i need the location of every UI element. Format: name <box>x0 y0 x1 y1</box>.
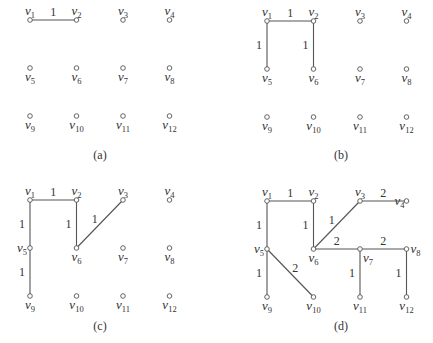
vertex-label-subscript: 4 <box>170 190 175 200</box>
vertex-label-subscript: 11 <box>122 124 130 134</box>
edge-weight-label: 1 <box>50 185 56 199</box>
edge-weight-label: 1 <box>50 5 56 19</box>
panel-c: 11111v1v2v3v4v5v6v7v8v9v10v11v12(c) <box>17 183 177 333</box>
vertex-label-subscript: 6 <box>314 257 318 267</box>
vertex-label-subscript: 8 <box>170 76 174 86</box>
vertex-label-v2: v2 <box>308 4 318 21</box>
vertex-label-v6: v6 <box>308 70 318 87</box>
edge-weight-label: 2 <box>334 234 340 248</box>
vertex-label-subscript: 2 <box>77 190 81 200</box>
vertex-label-subscript: 3 <box>361 191 365 201</box>
vertex-label-v2: v2 <box>71 3 81 20</box>
edge-weight-label: 1 <box>303 218 309 232</box>
vertex-v7 <box>358 247 363 252</box>
vertex-label-v11: v11 <box>353 118 367 135</box>
edge-weight-label: 1 <box>329 213 335 227</box>
vertex-label-subscript: 5 <box>268 77 272 87</box>
vertex-label-v12: v12 <box>162 117 176 134</box>
vertex-label-subscript: 2 <box>314 191 318 201</box>
edge-weight-label: 1 <box>256 218 262 232</box>
vertex-label-subscript: 4 <box>170 10 175 20</box>
vertex-label-v1: v1 <box>25 183 35 200</box>
vertex-label-subscript: 8 <box>170 256 174 266</box>
vertex-label-v5: v5 <box>25 69 35 86</box>
vertex-label-v7: v7 <box>355 70 365 87</box>
vertex-label-v11: v11 <box>116 297 130 314</box>
vertex-label-v8: v8 <box>164 249 174 266</box>
vertex-label-subscript: 1 <box>268 11 272 21</box>
vertex-label-v3: v3 <box>355 184 365 201</box>
edge-weight-label: 1 <box>303 38 309 52</box>
vertex-label-subscript: 10 <box>312 305 321 315</box>
panel-caption-c: (c) <box>93 319 106 333</box>
vertex-label-v6: v6 <box>71 249 81 266</box>
vertex-label-subscript: 2 <box>314 11 318 21</box>
vertex-label-subscript: 8 <box>416 248 420 258</box>
vertex-label-v8: v8 <box>164 69 174 86</box>
vertex-label-subscript: 5 <box>31 76 35 86</box>
vertex-label-subscript: 3 <box>124 190 128 200</box>
vertex-label-v3: v3 <box>118 183 128 200</box>
vertex-label-subscript: 1 <box>31 190 35 200</box>
edge-weight-label: 2 <box>292 261 298 275</box>
vertex-label-subscript: 7 <box>124 256 128 266</box>
vertex-label-subscript: 4 <box>407 11 412 21</box>
vertex-label-v5: v5 <box>17 240 27 257</box>
vertex-label-v11: v11 <box>353 298 367 315</box>
edge-weight-label: 1 <box>349 266 355 280</box>
vertex-label-v4: v4 <box>164 183 175 200</box>
vertex-label-v9: v9 <box>25 117 35 134</box>
vertex-label-v8: v8 <box>411 241 421 258</box>
panel-d: 11111222211v1v2v3v4v5v6v7v8v9v10v11v12(d… <box>254 184 421 333</box>
vertex-label-v7: v7 <box>118 249 128 266</box>
vertex-label-v6: v6 <box>308 250 318 267</box>
panel-caption-d: (d) <box>334 319 348 333</box>
vertex-v8 <box>404 247 409 252</box>
vertex-label-subscript: 8 <box>407 77 411 87</box>
panel-caption-b: (b) <box>334 148 348 162</box>
vertex-label-v3: v3 <box>118 3 128 20</box>
edge-v6-v3 <box>77 200 124 248</box>
vertex-label-v10: v10 <box>306 118 320 135</box>
vertex-label-subscript: 7 <box>124 76 128 86</box>
vertex-label-subscript: 9 <box>268 125 272 135</box>
graph-figure: 1v1v2v3v4v5v6v7v8v9v10v11v12(a)111v1v2v3… <box>0 0 433 343</box>
vertex-label-v3: v3 <box>355 4 365 21</box>
edge-weight-label: 1 <box>256 38 262 52</box>
edge-weight-label: 2 <box>380 186 386 200</box>
vertex-label-v9: v9 <box>262 118 272 135</box>
vertex-label-subscript: 5 <box>23 247 27 257</box>
vertex-label-v5: v5 <box>262 70 272 87</box>
panel-a: 1v1v2v3v4v5v6v7v8v9v10v11v12(a) <box>25 3 177 162</box>
vertex-label-subscript: 7 <box>361 77 365 87</box>
edge-weight-label: 1 <box>287 6 293 20</box>
vertex-label-v7: v7 <box>118 69 128 86</box>
vertex-label-subscript: 2 <box>77 10 81 20</box>
vertex-v5 <box>265 247 270 252</box>
vertex-label-v9: v9 <box>262 298 272 315</box>
vertex-label-subscript: 6 <box>77 256 81 266</box>
vertex-label-subscript: 3 <box>124 10 128 20</box>
edge-weight-label: 1 <box>396 266 402 280</box>
edge-weight-label: 1 <box>19 265 25 279</box>
vertex-label-subscript: 3 <box>361 11 365 21</box>
vertex-label-v4: v4 <box>164 3 175 20</box>
vertex-v4 <box>404 199 409 204</box>
vertex-label-v6: v6 <box>71 69 81 86</box>
vertex-label-v1: v1 <box>262 184 272 201</box>
vertex-v5 <box>28 246 33 251</box>
vertex-label-v1: v1 <box>262 4 272 21</box>
vertex-label-subscript: 11 <box>122 304 130 314</box>
vertex-label-subscript: 9 <box>31 304 35 314</box>
vertex-label-v10: v10 <box>69 117 83 134</box>
vertex-label-subscript: 9 <box>31 124 35 134</box>
vertex-label-v4: v4 <box>394 193 405 210</box>
vertex-label-v10: v10 <box>306 298 320 315</box>
panel-caption-a: (a) <box>93 148 106 162</box>
edge-v5-v10 <box>267 249 314 297</box>
vertex-label-v12: v12 <box>399 118 413 135</box>
vertex-label-v5: v5 <box>254 241 264 258</box>
vertex-label-v2: v2 <box>308 184 318 201</box>
edge-weight-label: 1 <box>256 266 262 280</box>
vertex-label-subscript: 12 <box>405 125 414 135</box>
